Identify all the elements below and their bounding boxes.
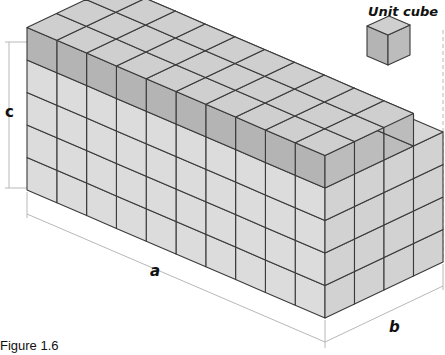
dimension-a-label: a	[150, 262, 160, 280]
unit-cube-label: Unit cube	[368, 4, 438, 19]
figure-caption: Figure 1.6	[0, 338, 59, 353]
prism-diagram	[0, 0, 445, 355]
unit-cube-icon	[367, 16, 410, 65]
dimension-c-label: c	[5, 103, 14, 121]
dimension-b-label: b	[389, 318, 400, 336]
